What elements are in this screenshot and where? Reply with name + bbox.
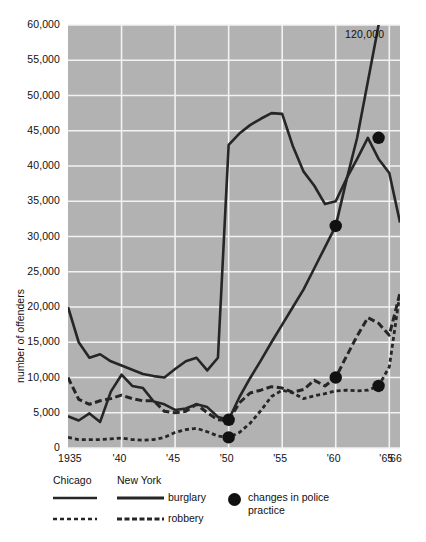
x-axis-tick-label: '66 <box>388 452 402 464</box>
y-axis-tick-label: 40,000 <box>4 159 60 171</box>
x-axis-tick-label: '40 <box>113 452 127 464</box>
y-axis-label: number of offenders <box>14 276 26 396</box>
y-axis-tick-label: 20,000 <box>4 300 60 312</box>
legend-swatches <box>0 486 426 542</box>
y-axis-tick-label: 10,000 <box>4 371 60 383</box>
y-axis-tick-label: 0 <box>4 441 60 453</box>
annotation-120000: 120,000 <box>345 28 384 40</box>
x-axis-tick-label: '45 <box>166 452 180 464</box>
x-axis-tick-label: '55 <box>273 452 287 464</box>
x-axis-tick-label: '60 <box>327 452 341 464</box>
y-axis-tick-label: 60,000 <box>4 18 60 30</box>
legend-marker-label-line1: changes in police <box>248 491 329 503</box>
y-axis-tick-label: 5,000 <box>4 406 60 418</box>
police-practice-marker <box>330 371 342 383</box>
y-axis-tick-label: 30,000 <box>4 230 60 242</box>
legend-marker-dot <box>228 493 241 506</box>
legend-column-newyork: New York <box>117 474 161 486</box>
police-practice-marker <box>222 414 234 426</box>
police-practice-marker <box>330 220 342 232</box>
y-axis-tick-label: 55,000 <box>4 53 60 65</box>
x-axis-tick-label: 1935 <box>58 452 82 464</box>
legend-label-robbery: robbery <box>168 512 204 524</box>
y-axis-tick-label: 25,000 <box>4 265 60 277</box>
legend-marker-label-line2: practice <box>248 504 285 516</box>
legend-column-chicago: Chicago <box>53 474 92 486</box>
legend-label-burglary: burglary <box>168 491 206 503</box>
y-axis-tick-label: 50,000 <box>4 89 60 101</box>
y-axis-tick-label: 15,000 <box>4 335 60 347</box>
y-axis-tick-label: 45,000 <box>4 124 60 136</box>
chart-container: 05,00010,00015,00020,00025,00030,00035,0… <box>0 0 426 542</box>
y-axis-tick-label: 35,000 <box>4 194 60 206</box>
police-practice-marker <box>222 431 234 443</box>
x-axis-tick-label: '50 <box>220 452 234 464</box>
police-practice-marker <box>372 380 384 392</box>
police-practice-marker <box>372 132 384 144</box>
